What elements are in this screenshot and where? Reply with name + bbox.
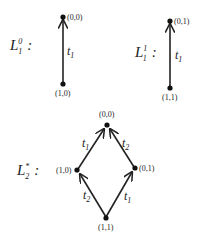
lattice-label-l1-0: L01: <box>9 37 32 56</box>
node-label-bottom: (1,1) <box>162 93 178 102</box>
edge-label-bottom-right: t1 <box>124 189 131 205</box>
node-right <box>132 165 137 170</box>
edge-label-right-top: t2 <box>122 136 129 152</box>
lattice-label-l-star-2: L*2: <box>16 162 39 181</box>
edge-arrow-bottom-right <box>106 172 132 217</box>
node-label-bottom: (1,0) <box>55 89 71 98</box>
diagram-l-star-2: L*2: (0,0) (1,0) (0,1) (1,1) t1 t2 t2 t1 <box>16 110 155 232</box>
node-label-right: (0,1) <box>139 164 155 173</box>
lattice-label-l1-1: L11: <box>134 44 157 63</box>
node-bottom <box>60 81 65 86</box>
node-bottom <box>103 215 108 220</box>
node-top <box>167 18 172 23</box>
node-left <box>74 167 79 172</box>
node-label-left: (1,0) <box>56 166 72 175</box>
diagram-l1-1: L11: (0,1) (1,1) t1 <box>134 17 190 102</box>
edge-label: t1 <box>67 44 74 60</box>
lattice-diagrams: L01: (0,0) (1,0) t1 L11: (0,1) (1,1) t1 … <box>0 0 202 240</box>
node-label-bottom: (1,1) <box>98 223 114 232</box>
node-top <box>60 14 65 19</box>
diagram-l1-0: L01: (0,0) (1,0) t1 <box>9 13 83 98</box>
node-top <box>104 122 109 127</box>
edge-label: t1 <box>175 48 182 64</box>
node-label-top: (0,1) <box>174 17 190 26</box>
edge-label-left-top: t1 <box>82 136 89 152</box>
node-label-top: (0,0) <box>99 110 115 119</box>
node-bottom <box>167 85 172 90</box>
node-label-top: (0,0) <box>67 13 83 22</box>
